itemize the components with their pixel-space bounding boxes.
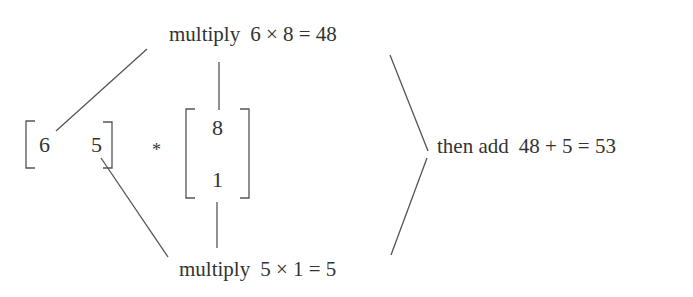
connector-top-to-sum: [390, 55, 428, 151]
row-vector-entry-2: 5: [91, 134, 102, 156]
step-2-label: multiply: [179, 257, 250, 281]
column-right-bracket: [240, 109, 249, 198]
connector-bottom-to-sum: [391, 158, 427, 255]
result-label: then add: [437, 134, 509, 158]
step-1-expression: 6 × 8 = 48: [250, 22, 337, 46]
step-1-annotation: multiply6 × 8 = 48: [169, 24, 337, 45]
step-1-label: multiply: [169, 22, 240, 46]
column-vector-entry-1: 8: [212, 117, 223, 139]
row-vector-entry-1: 6: [39, 134, 50, 156]
result-annotation: then add48 + 5 = 53: [437, 136, 616, 157]
row-left-bracket: [26, 121, 35, 168]
matrix-multiplication-diagram: 6 5 * 8 1 multiply6 × 8 = 48 multiply5 ×…: [0, 0, 693, 297]
step-2-expression: 5 × 1 = 5: [260, 257, 336, 281]
column-vector-entry-2: 1: [212, 169, 223, 191]
row-right-bracket: [103, 122, 112, 168]
connector-5-to-bottom: [101, 158, 168, 257]
step-2-annotation: multiply5 × 1 = 5: [179, 259, 336, 280]
connector-6-to-top: [56, 49, 147, 131]
multiplication-operator: *: [152, 141, 161, 159]
column-left-bracket: [186, 109, 195, 198]
result-expression: 48 + 5 = 53: [519, 134, 616, 158]
